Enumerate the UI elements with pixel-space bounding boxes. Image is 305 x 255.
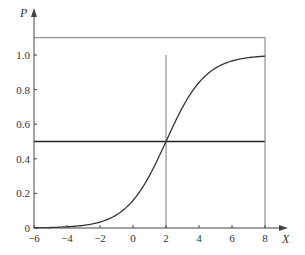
reference-lines [34, 38, 265, 228]
logistic-chart: −6−4−202468 00.20.40.60.81.0 X P [0, 0, 305, 255]
axes [31, 8, 288, 231]
x-tick-label: 8 [262, 232, 268, 244]
x-tick-label: −2 [94, 232, 106, 244]
y-tick-label: 0.8 [16, 84, 30, 96]
x-tick-label: −4 [61, 232, 73, 244]
y-tick-label: 0.6 [16, 118, 30, 130]
y-tick-label: 1.0 [16, 49, 30, 61]
x-tick-label: 2 [163, 232, 169, 244]
y-axis-title: P [19, 6, 28, 20]
y-tick-label: 0 [25, 222, 31, 234]
x-axis-title: X [281, 232, 290, 246]
x-axis-arrow-icon [279, 225, 288, 231]
x-tick-label: 4 [196, 232, 202, 244]
x-tick-label: 6 [229, 232, 235, 244]
y-tick-label: 0.4 [16, 153, 30, 165]
x-tick-label: 0 [130, 232, 136, 244]
y-axis-arrow-icon [31, 8, 37, 17]
y-tick-label: 0.2 [16, 187, 30, 199]
